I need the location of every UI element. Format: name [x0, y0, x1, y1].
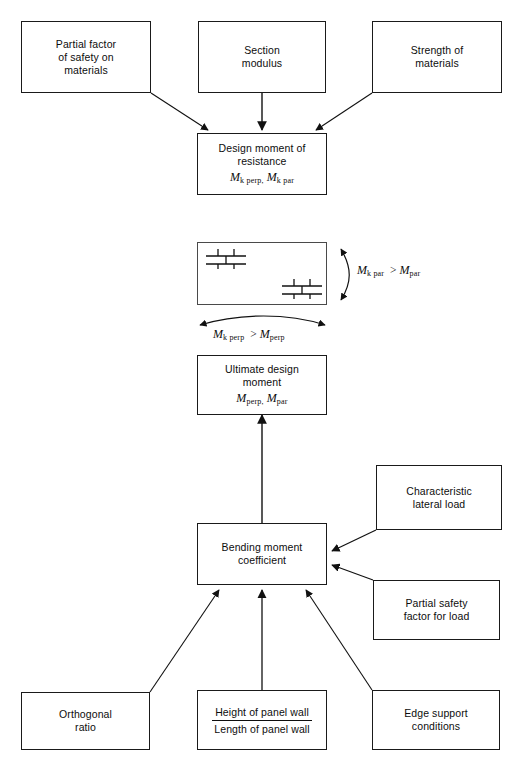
node-section-modulus[interactable]: Section modulus	[198, 21, 326, 93]
symbol-subscript: par	[277, 397, 288, 406]
annotation-rhs-subscript: perp	[270, 333, 285, 342]
node-line: materials	[415, 57, 459, 70]
node-line: conditions	[412, 720, 460, 733]
aspect-ratio-fraction: Height of panel wall Length of panel wal…	[212, 705, 311, 736]
arrow-edge-support-to-bending	[306, 590, 372, 690]
node-partial-safety-factor-for-load[interactable]: Partial safety factor for load	[373, 580, 500, 640]
arrow-partial-safety-to-bending	[332, 565, 373, 580]
node-orthogonal-ratio[interactable]: Orthogonal ratio	[21, 692, 150, 750]
fraction-numerator: Height of panel wall	[212, 705, 311, 721]
arrow-orthogonal-ratio-to-bending	[150, 590, 219, 692]
node-ultimate-design-moment[interactable]: Ultimate design moment Mperp, Mpar	[197, 355, 327, 415]
node-line: lateral load	[413, 498, 466, 511]
double-arrow-horizontal-perp	[200, 316, 325, 325]
node-line: factor for load	[404, 610, 470, 623]
node-line: Characteristic	[406, 485, 472, 498]
annotation-operator: >	[250, 328, 257, 340]
symbol-m-perp: M	[236, 391, 246, 405]
node-design-moment-of-resistance[interactable]: Design moment of resistance Mk perp, Mk …	[197, 133, 327, 195]
annotation-rhs: M	[260, 327, 270, 341]
annotation-mk-par-greater-than-m-par: Mk par >Mpar	[357, 263, 420, 278]
double-arrow-vertical-par	[341, 249, 349, 300]
symbol-subscript: k perp,	[240, 176, 264, 185]
node-line: Section	[244, 44, 280, 57]
annotation-mk-perp-greater-than-m-perp: Mk perp >Mperp	[213, 327, 285, 342]
brick-bond-icon-top-left	[204, 247, 248, 271]
node-line: Design moment of	[219, 142, 306, 155]
arrow-characteristic-load-to-bending	[332, 530, 376, 551]
node-line: Edge support	[404, 707, 468, 720]
node-symbol-row: Mk perp, Mk par	[230, 171, 294, 187]
brick-bond-icon-bottom-right	[280, 277, 324, 301]
node-line: Bending moment	[222, 541, 303, 554]
annotation-lhs: M	[213, 327, 223, 341]
symbol-m-par: M	[267, 391, 277, 405]
annotation-lhs-subscript: k par	[367, 269, 384, 278]
annotation-lhs: M	[357, 263, 367, 277]
node-line: Partial factor	[56, 38, 116, 51]
node-line: Partial safety	[405, 597, 467, 610]
node-line: coefficient	[238, 554, 286, 567]
symbol-subscript: perp,	[246, 397, 263, 406]
annotation-operator: >	[390, 264, 397, 276]
annotation-rhs: M	[400, 263, 410, 277]
wall-panel-illustration	[197, 242, 327, 305]
node-strength-of-materials[interactable]: Strength of materials	[372, 21, 502, 93]
symbol-mk-par: M	[267, 170, 277, 184]
flowchart-canvas: Partial factor of safety on materials Se…	[0, 0, 522, 774]
node-line: Orthogonal	[59, 708, 112, 721]
node-panel-wall-aspect-ratio[interactable]: Height of panel wall Length of panel wal…	[197, 690, 327, 750]
node-edge-support-conditions[interactable]: Edge support conditions	[372, 690, 500, 750]
arrow-strength-to-design-moment	[316, 93, 372, 130]
annotation-rhs-subscript: par	[410, 269, 421, 278]
node-line: of safety on	[58, 51, 113, 64]
node-line: Ultimate design	[225, 363, 299, 376]
node-line: Strength of	[411, 44, 463, 57]
fraction-denominator: Length of panel wall	[212, 721, 311, 736]
symbol-subscript: k par	[277, 176, 294, 185]
node-line: modulus	[242, 57, 282, 70]
node-line: resistance	[238, 155, 287, 168]
node-partial-factor-of-safety-on-materials[interactable]: Partial factor of safety on materials	[21, 21, 151, 93]
node-characteristic-lateral-load[interactable]: Characteristic lateral load	[376, 465, 502, 530]
annotation-lhs-subscript: k perp	[223, 333, 244, 342]
node-line: ratio	[75, 721, 96, 734]
arrow-partial-factor-to-design-moment	[151, 93, 208, 130]
node-bending-moment-coefficient[interactable]: Bending moment coefficient	[197, 523, 327, 585]
node-line: materials	[64, 64, 108, 77]
node-symbol-row: Mperp, Mpar	[236, 392, 287, 408]
symbol-mk-perp: M	[230, 170, 240, 184]
node-line: moment	[243, 376, 282, 389]
